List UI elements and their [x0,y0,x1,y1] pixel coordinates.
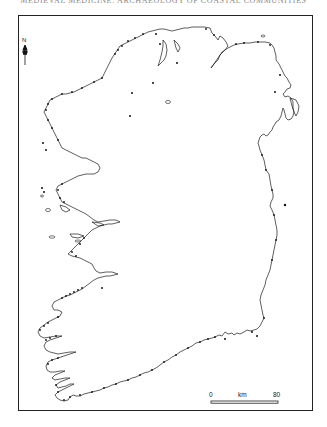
scale-start-label: 0 [209,391,213,398]
scale-unit-label: km [238,391,247,398]
ireland-coastline [38,27,299,401]
islands [41,35,266,242]
north-arrow-icon [23,45,27,65]
scale-end-label: 80 [273,391,280,398]
map-canvas [0,0,327,427]
scale-bar [211,401,278,403]
site-markers [39,28,286,401]
